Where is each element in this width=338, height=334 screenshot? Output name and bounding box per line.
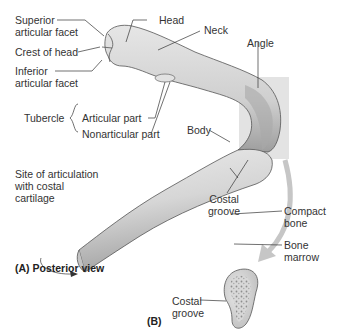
label-articular-part: Articular part [82, 112, 142, 124]
label-tubercle: Tubercle [24, 112, 64, 124]
label-costal-groove-a: Costal groove [208, 193, 240, 217]
label-superior-articular-facet: Superior articular facet [15, 14, 78, 38]
label-neck: Neck [204, 24, 228, 36]
label-crest-of-head: Crest of head [15, 46, 78, 58]
caption-view-a: (A) Posterior view [15, 262, 104, 274]
label-body: Body [187, 124, 211, 136]
label-costal-groove-b: Costal groove [172, 295, 204, 319]
label-angle: Angle [247, 37, 274, 49]
label-nonarticular-part: Nonarticular part [82, 128, 160, 140]
label-site-of-articulation: Site of articulation with costal cartila… [15, 168, 98, 204]
label-bone-marrow: Bone marrow [284, 239, 319, 263]
label-inferior-articular-facet: Inferior articular facet [15, 65, 78, 89]
caption-view-b: (B) [147, 315, 162, 327]
tubercle [155, 74, 175, 82]
label-head: Head [159, 14, 184, 26]
label-compact-bone: Compact bone [284, 205, 326, 229]
